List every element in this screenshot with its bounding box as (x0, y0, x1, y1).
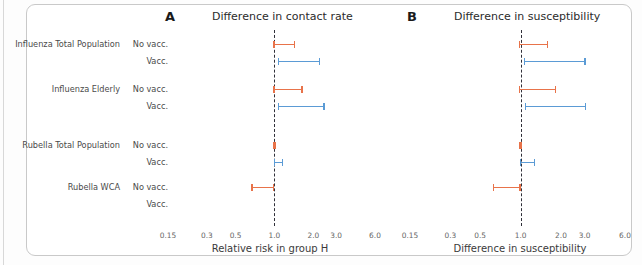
error-bar (273, 44, 295, 45)
axis-tick-label: 0.3 (201, 231, 213, 240)
reference-line-b (521, 30, 522, 226)
group-label: Influenza Total Population (8, 39, 120, 49)
panel-letter-a: A (165, 9, 175, 24)
reference-line-a (274, 30, 275, 226)
error-bar-cap-lower (274, 159, 275, 166)
error-bar-shaft (273, 89, 302, 90)
error-bar-cap-lower (519, 41, 520, 48)
axis-tick-label: 3.0 (330, 231, 342, 240)
error-bar-shaft (278, 106, 325, 107)
group-label: Influenza Elderly (8, 84, 120, 94)
error-bar-shaft (251, 187, 274, 188)
axis-tick-label: 0.15 (402, 231, 418, 240)
axis-tick-label: 6.0 (369, 231, 381, 240)
axis-tick-label: 3.0 (579, 231, 591, 240)
error-bar-cap-upper (273, 184, 274, 191)
page-left-rule (3, 0, 4, 265)
axis-tick-label: 0.5 (230, 231, 242, 240)
error-bar-cap-upper (301, 86, 302, 93)
error-bar (525, 106, 587, 107)
error-bar (273, 89, 302, 90)
forest-plot-figure: A Difference in contact rate B Differenc… (0, 0, 642, 265)
error-bar-cap-upper (555, 86, 556, 93)
error-bar-cap-lower (273, 41, 274, 48)
error-bar-cap-upper (520, 142, 521, 149)
panel-title-b: Difference in susceptibility (454, 10, 600, 23)
error-bar-cap-upper (519, 184, 520, 191)
error-bar-cap-upper (319, 58, 320, 65)
error-bar-shaft (519, 44, 548, 45)
error-bar-cap-upper (274, 142, 275, 149)
error-bar (519, 44, 548, 45)
error-bar (493, 187, 521, 188)
axis-tick-label: 1.0 (515, 231, 527, 240)
error-bar (273, 145, 275, 146)
error-bar-cap-lower (251, 184, 252, 191)
panel-a-axis-title: Relative risk in group H (212, 243, 329, 254)
error-bar (519, 145, 521, 146)
axis-tick-label: 0.3 (445, 231, 457, 240)
error-bar-cap-lower (278, 58, 279, 65)
error-bar (278, 61, 320, 62)
panel-a-plot-area (150, 26, 390, 226)
error-bar-shaft (278, 61, 320, 62)
error-bar-shaft (525, 106, 587, 107)
error-bar-cap-upper (323, 103, 324, 110)
error-bar-cap-lower (520, 159, 521, 166)
error-bar (274, 162, 283, 163)
error-bar-shaft (519, 89, 557, 90)
error-bar-shaft (524, 61, 586, 62)
error-bar-cap-lower (278, 103, 279, 110)
panel-title-a: Difference in contact rate (212, 10, 353, 23)
panel-b-plot-area (392, 26, 632, 226)
error-bar-shaft (493, 187, 521, 188)
error-bar-cap-lower (493, 184, 494, 191)
axis-tick-label: 2.0 (555, 231, 567, 240)
error-bar-shaft (273, 44, 295, 45)
axis-tick-label: 2.0 (307, 231, 319, 240)
error-bar (520, 162, 535, 163)
error-bar-cap-upper (282, 159, 283, 166)
panel-letter-b: B (407, 9, 417, 24)
error-bar (524, 61, 586, 62)
error-bar-cap-upper (584, 58, 585, 65)
error-bar-cap-lower (273, 86, 274, 93)
error-bar-cap-upper (294, 41, 295, 48)
axis-tick-label: 0.15 (160, 231, 176, 240)
axis-tick-label: 1.0 (269, 231, 281, 240)
error-bar (519, 89, 557, 90)
error-bar-cap-upper (534, 159, 535, 166)
group-label: Rubella WCA (8, 182, 120, 192)
error-bar (278, 106, 325, 107)
axis-tick-label: 6.0 (619, 231, 631, 240)
group-label: Rubella Total Population (8, 140, 120, 150)
error-bar-cap-lower (519, 86, 520, 93)
error-bar (251, 187, 274, 188)
error-bar-cap-lower (524, 58, 525, 65)
error-bar-cap-upper (585, 103, 586, 110)
error-bar-cap-upper (547, 41, 548, 48)
panel-b-axis-title: Difference in susceptibility (453, 243, 586, 254)
error-bar-cap-lower (525, 103, 526, 110)
axis-tick-label: 0.5 (474, 231, 486, 240)
